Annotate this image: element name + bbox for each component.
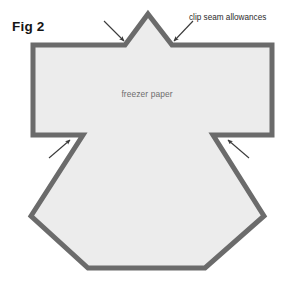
arrow-clip-left-underarm <box>49 140 70 158</box>
pattern-diagram <box>0 0 294 284</box>
figure-page: Fig 2 clip seam allowances freezer paper <box>0 0 294 284</box>
freezer-paper-outline <box>31 14 272 268</box>
clip-seam-allowances-label: clip seam allowances <box>189 14 266 22</box>
arrow-clip-right-underarm <box>228 140 249 158</box>
arrow-clip-right-notch <box>174 21 193 41</box>
figure-number-label: Fig 2 <box>12 20 45 34</box>
arrow-clip-left-notch <box>104 21 124 41</box>
freezer-paper-label: freezer paper <box>0 90 294 98</box>
